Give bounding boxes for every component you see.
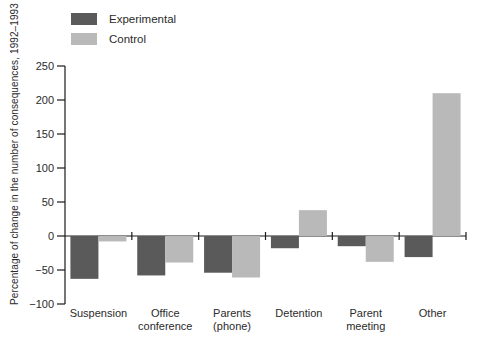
y-tick-label-50: 50 bbox=[42, 196, 54, 208]
x-category-label-suspension: Suspension bbox=[70, 307, 128, 319]
y-tick-label--100: −100 bbox=[29, 298, 54, 310]
x-category-label-detention: Detention bbox=[275, 307, 322, 319]
y-tick-label-100: 100 bbox=[36, 162, 54, 174]
bar-parent-meeting-experimental[interactable] bbox=[338, 236, 366, 246]
y-tick-label--50: −50 bbox=[35, 264, 54, 276]
y-tick-label-0: 0 bbox=[48, 230, 54, 242]
y-tick-label-150: 150 bbox=[36, 128, 54, 140]
y-tick-label-200: 200 bbox=[36, 94, 54, 106]
bar-detention-control[interactable] bbox=[299, 210, 327, 236]
bar-parent-meeting-control[interactable] bbox=[366, 236, 394, 262]
chart-figure: Percentage of change in the number of co… bbox=[0, 0, 477, 352]
bar-other-control[interactable] bbox=[433, 93, 461, 236]
bar-parents-phone-experimental[interactable] bbox=[204, 236, 232, 273]
bar-parents-phone-control[interactable] bbox=[232, 236, 260, 277]
bar-chart: 250200150100500−50−100SuspensionOfficeco… bbox=[0, 0, 477, 352]
x-category-label-other: Other bbox=[419, 307, 447, 319]
bar-office-conference-control[interactable] bbox=[165, 236, 193, 263]
x-category-label-parent-meeting: Parentmeeting bbox=[346, 307, 385, 332]
bar-suspension-experimental[interactable] bbox=[70, 236, 98, 279]
y-tick-label-250: 250 bbox=[36, 60, 54, 72]
bar-other-experimental[interactable] bbox=[405, 236, 433, 257]
x-category-label-parents-phone: Parents(phone) bbox=[213, 307, 251, 332]
bar-office-conference-experimental[interactable] bbox=[137, 236, 165, 275]
bar-detention-experimental[interactable] bbox=[271, 236, 299, 248]
x-category-label-office-conference: Officeconference bbox=[138, 307, 192, 332]
bar-suspension-control[interactable] bbox=[98, 236, 126, 241]
